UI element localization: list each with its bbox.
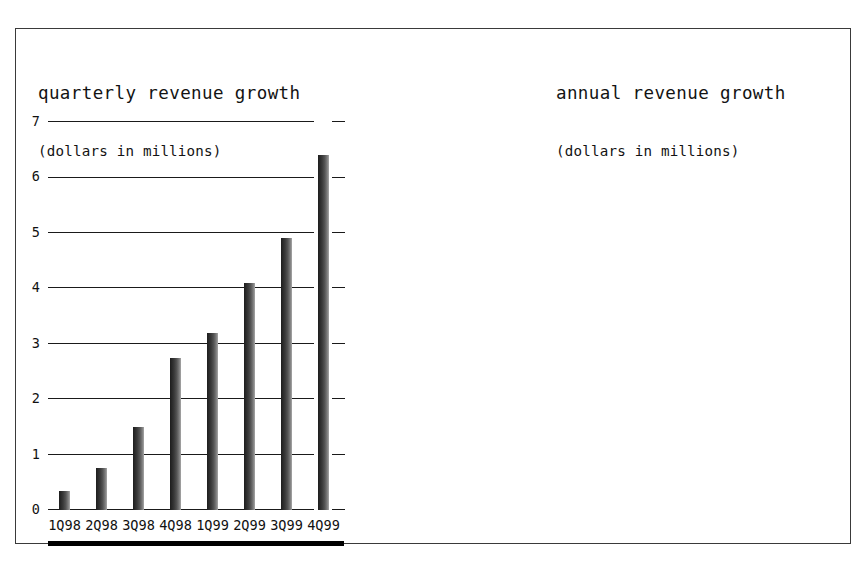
chart-quarterly-title: quarterly revenue growth: [38, 83, 300, 104]
gridline: [48, 398, 314, 399]
chart-annual-subtitle: (dollars in millions): [556, 142, 786, 161]
figure-frame: quarterly revenue growth (dollars in mil…: [15, 28, 851, 544]
x-axis-tick-label: 4Q99: [303, 518, 345, 532]
x-axis-tick-label: 2Q99: [229, 518, 271, 532]
y-axis-tick-label: 6: [28, 170, 40, 184]
x-axis-tick-label: 4Q98: [155, 518, 197, 532]
gridline: [48, 121, 314, 122]
bar: [133, 427, 144, 510]
axis-tick: [332, 287, 345, 288]
axis-tick: [332, 509, 345, 510]
gridline: [48, 232, 314, 233]
baseline-rule-quarterly: [48, 541, 344, 546]
y-axis-tick-label: 7: [28, 115, 40, 129]
bar: [96, 468, 107, 510]
chart-annual-title: annual revenue growth: [556, 83, 786, 104]
axis-tick: [332, 232, 345, 233]
gridline: [48, 454, 314, 455]
axis-tick: [332, 398, 345, 399]
x-axis-tick-label: 2Q98: [81, 518, 123, 532]
plot-area-quarterly: 012345671Q982Q983Q984Q981Q992Q993Q994Q99: [48, 122, 344, 510]
y-axis-tick-label: 4: [28, 281, 40, 295]
bar: [207, 333, 218, 510]
bar: [318, 155, 329, 510]
x-axis-tick-label: 3Q99: [266, 518, 308, 532]
gridline: [48, 509, 314, 510]
y-axis-tick-label: 2: [28, 392, 40, 406]
bar: [244, 283, 255, 510]
axis-tick: [332, 177, 345, 178]
gridline: [48, 177, 314, 178]
y-axis-tick-label: 1: [28, 448, 40, 462]
axis-tick: [332, 454, 345, 455]
chart-annual-revenue-growth: annual revenue growth (dollars in millio…: [446, 29, 852, 543]
chart-annual-title-block: annual revenue growth (dollars in millio…: [556, 45, 786, 199]
gridline: [48, 287, 314, 288]
x-axis-tick-label: 1Q98: [44, 518, 86, 532]
chart-quarterly-revenue-growth: quarterly revenue growth (dollars in mil…: [16, 29, 446, 543]
x-axis-tick-label: 3Q98: [118, 518, 160, 532]
bar: [281, 238, 292, 510]
bar: [170, 358, 181, 510]
gridline: [48, 343, 314, 344]
bar: [59, 491, 70, 510]
axis-tick: [332, 121, 345, 122]
y-axis-tick-label: 0: [28, 503, 40, 517]
axis-tick: [332, 343, 345, 344]
y-axis-tick-label: 5: [28, 226, 40, 240]
x-axis-tick-label: 1Q99: [192, 518, 234, 532]
y-axis-tick-label: 3: [28, 337, 40, 351]
